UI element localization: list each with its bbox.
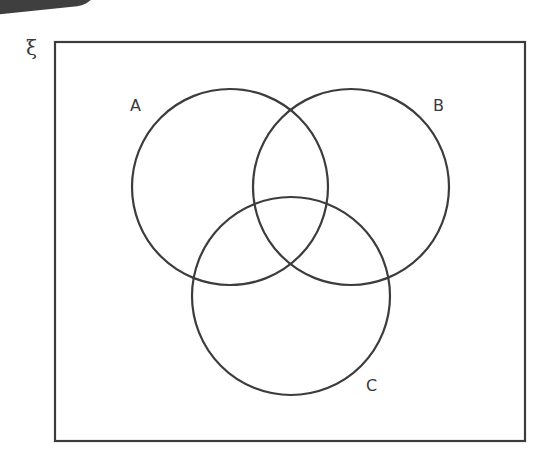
set-c-circle xyxy=(192,197,390,395)
universal-set-symbol: ξ xyxy=(26,38,37,58)
set-b-circle xyxy=(253,89,449,285)
set-c-label: C xyxy=(366,378,377,394)
set-a-circle xyxy=(132,89,328,285)
set-b-label: B xyxy=(433,98,444,114)
universal-set-rectangle xyxy=(55,42,525,441)
set-a-label: A xyxy=(130,98,141,114)
venn-diagram xyxy=(0,0,556,455)
